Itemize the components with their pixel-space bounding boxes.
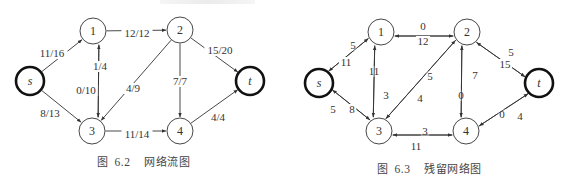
cropped-header-text xyxy=(160,0,255,4)
edge-label-4-t: 4/4 xyxy=(211,111,226,123)
edge-label-2-4: 7/7 xyxy=(173,75,188,87)
edge-2-to-3 xyxy=(386,40,456,118)
node-label: 4 xyxy=(177,124,183,138)
edge-label-2-3: 4 xyxy=(417,92,423,104)
node-3: 3 xyxy=(79,118,105,144)
caption-title: 网络流图 xyxy=(144,156,190,169)
node-label: 4 xyxy=(463,124,469,138)
node-label: 3 xyxy=(376,124,382,138)
edge-label-3-1: 3 xyxy=(383,89,389,101)
edge-label-2-1: 12 xyxy=(418,35,429,47)
edge-label-2-t: 15/20 xyxy=(207,44,233,56)
edge-label-s-1: 11/16 xyxy=(40,47,65,59)
node-t: t xyxy=(525,69,553,97)
node-label: s xyxy=(317,76,322,90)
edge-2-to-4 xyxy=(461,45,462,117)
caption-number: 6.3 xyxy=(395,163,411,175)
edge-label-s-3: 5 xyxy=(330,103,336,115)
node-1: 1 xyxy=(368,19,394,45)
edge-3-to-1 xyxy=(98,45,99,118)
edge-label-1-s: 11 xyxy=(341,56,352,68)
edge-label-s-3: 8/13 xyxy=(40,107,60,119)
edge-label-t-2: 15 xyxy=(500,58,512,70)
node-label: 2 xyxy=(177,23,183,37)
edge-label-t-4: 4 xyxy=(517,110,523,122)
edge-label-3-4: 11/14 xyxy=(125,128,150,140)
edge-label-4-3: 11 xyxy=(411,140,422,152)
network-flow-graph: 11/168/1312/120/101/44/97/715/2011/144/4… xyxy=(16,17,264,144)
node-label: 3 xyxy=(89,124,95,138)
edge-label-3-s: 8 xyxy=(349,103,355,115)
caption-prefix: 图 xyxy=(97,156,109,169)
figure-caption-6-2: 图 6.2 网络流图 xyxy=(97,153,190,169)
edge-2-to-3 xyxy=(101,40,171,120)
node-label: 2 xyxy=(464,25,470,39)
node-2: 2 xyxy=(167,17,193,43)
edge-label-3-1: 1/4 xyxy=(93,60,108,72)
edge-3-to-1 xyxy=(373,46,374,118)
node-s: s xyxy=(16,67,44,95)
edge-label-1-2: 0 xyxy=(420,20,426,32)
caption-prefix: 图 xyxy=(377,163,389,176)
node-label: s xyxy=(28,74,33,88)
edge-label-1-2: 12/12 xyxy=(124,27,149,39)
node-3: 3 xyxy=(366,118,392,144)
edge-label-2-3: 4/9 xyxy=(126,82,141,94)
node-1: 1 xyxy=(80,18,106,44)
figure-caption-6-3: 图 6.3 残留网络图 xyxy=(377,160,482,176)
edge-label-1-3: 0/10 xyxy=(76,84,96,96)
edge-label-2-4: 7 xyxy=(472,69,478,81)
node-label: 1 xyxy=(90,24,96,38)
node-4: 4 xyxy=(453,118,479,144)
flow-network-diagrams: 11/168/1312/120/101/44/97/715/2011/144/4… xyxy=(0,0,563,187)
node-s: s xyxy=(305,69,333,97)
residual-network-graph: 51101211358540751531104s1234t xyxy=(305,19,553,152)
edge-label-2-t: 5 xyxy=(508,46,514,58)
node-4: 4 xyxy=(167,118,193,144)
caption-title: 残留网络图 xyxy=(424,163,482,176)
node-t: t xyxy=(236,67,264,95)
node-label: 1 xyxy=(378,25,384,39)
diagram-canvas: 11/168/1312/120/101/44/97/715/2011/144/4… xyxy=(0,0,563,187)
node-2: 2 xyxy=(454,19,480,45)
caption-number: 6.2 xyxy=(115,156,131,168)
